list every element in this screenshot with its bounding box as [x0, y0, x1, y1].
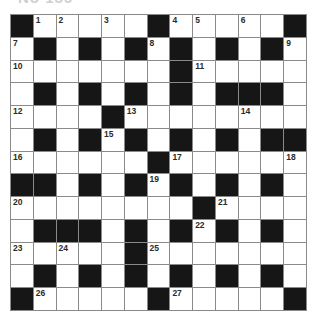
grid-cell[interactable] [102, 243, 124, 265]
grid-cell[interactable]: 9 [284, 38, 306, 60]
grid-cell[interactable] [284, 243, 306, 265]
grid-cell[interactable] [284, 220, 306, 242]
grid-cell[interactable]: 10 [11, 61, 33, 83]
grid-cell[interactable] [79, 15, 101, 37]
grid-cell[interactable] [79, 61, 101, 83]
grid-cell[interactable] [34, 243, 56, 265]
grid-cell[interactable] [239, 38, 261, 60]
grid-cell[interactable] [57, 265, 79, 287]
grid-cell[interactable]: 23 [11, 243, 33, 265]
grid-cell[interactable] [102, 152, 124, 174]
grid-cell[interactable] [102, 197, 124, 219]
grid-cell[interactable] [239, 288, 261, 310]
grid-cell[interactable]: 17 [170, 152, 192, 174]
grid-cell[interactable] [170, 197, 192, 219]
grid-cell[interactable] [148, 83, 170, 105]
grid-cell[interactable] [125, 288, 147, 310]
grid-cell[interactable] [57, 83, 79, 105]
grid-cell[interactable] [125, 197, 147, 219]
grid-cell[interactable] [284, 265, 306, 287]
grid-cell[interactable]: 27 [170, 288, 192, 310]
grid-cell[interactable] [239, 265, 261, 287]
grid-cell[interactable] [216, 288, 238, 310]
grid-cell[interactable]: 21 [216, 197, 238, 219]
grid-cell[interactable] [239, 197, 261, 219]
grid-cell[interactable]: 4 [170, 15, 192, 37]
grid-cell[interactable] [239, 220, 261, 242]
grid-cell[interactable] [34, 61, 56, 83]
grid-cell[interactable] [34, 152, 56, 174]
grid-cell[interactable] [193, 106, 215, 128]
grid-cell[interactable] [148, 61, 170, 83]
grid-cell[interactable] [170, 106, 192, 128]
grid-cell[interactable]: 5 [193, 15, 215, 37]
grid-cell[interactable] [193, 288, 215, 310]
grid-cell[interactable] [102, 38, 124, 60]
grid-cell[interactable] [102, 61, 124, 83]
grid-cell[interactable] [193, 152, 215, 174]
grid-cell[interactable] [193, 83, 215, 105]
grid-cell[interactable] [34, 106, 56, 128]
grid-cell[interactable] [216, 61, 238, 83]
grid-cell[interactable] [148, 265, 170, 287]
grid-cell[interactable] [79, 243, 101, 265]
grid-cell[interactable] [57, 288, 79, 310]
grid-cell[interactable] [11, 220, 33, 242]
grid-cell[interactable] [57, 129, 79, 151]
grid-cell[interactable]: 26 [34, 288, 56, 310]
grid-cell[interactable] [239, 152, 261, 174]
grid-cell[interactable]: 7 [11, 38, 33, 60]
grid-cell[interactable] [79, 288, 101, 310]
grid-cell[interactable]: 24 [57, 243, 79, 265]
grid-cell[interactable] [239, 174, 261, 196]
grid-cell[interactable] [11, 129, 33, 151]
grid-cell[interactable]: 11 [193, 61, 215, 83]
grid-cell[interactable] [261, 152, 283, 174]
grid-cell[interactable] [34, 197, 56, 219]
grid-cell[interactable]: 3 [102, 15, 124, 37]
grid-cell[interactable] [102, 220, 124, 242]
grid-cell[interactable] [57, 106, 79, 128]
grid-cell[interactable] [102, 174, 124, 196]
grid-cell[interactable] [79, 152, 101, 174]
grid-cell[interactable] [216, 243, 238, 265]
grid-cell[interactable] [57, 38, 79, 60]
grid-cell[interactable] [79, 197, 101, 219]
grid-cell[interactable] [57, 152, 79, 174]
grid-cell[interactable] [284, 61, 306, 83]
grid-cell[interactable] [148, 106, 170, 128]
grid-cell[interactable] [148, 220, 170, 242]
grid-cell[interactable] [261, 106, 283, 128]
grid-cell[interactable] [261, 61, 283, 83]
grid-cell[interactable] [193, 243, 215, 265]
grid-cell[interactable] [193, 38, 215, 60]
grid-cell[interactable] [148, 129, 170, 151]
grid-cell[interactable]: 16 [11, 152, 33, 174]
grid-cell[interactable] [125, 61, 147, 83]
grid-cell[interactable]: 18 [284, 152, 306, 174]
grid-cell[interactable]: 12 [11, 106, 33, 128]
grid-cell[interactable] [125, 15, 147, 37]
grid-cell[interactable] [102, 288, 124, 310]
grid-cell[interactable] [57, 61, 79, 83]
grid-cell[interactable] [125, 152, 147, 174]
grid-cell[interactable]: 22 [193, 220, 215, 242]
grid-cell[interactable] [284, 197, 306, 219]
grid-cell[interactable] [261, 197, 283, 219]
grid-cell[interactable] [193, 265, 215, 287]
grid-cell[interactable] [284, 83, 306, 105]
grid-cell[interactable] [284, 106, 306, 128]
grid-cell[interactable]: 15 [102, 129, 124, 151]
grid-cell[interactable]: 20 [11, 197, 33, 219]
grid-cell[interactable] [261, 243, 283, 265]
grid-cell[interactable] [57, 174, 79, 196]
grid-cell[interactable] [11, 265, 33, 287]
grid-cell[interactable] [239, 243, 261, 265]
grid-cell[interactable] [170, 243, 192, 265]
grid-cell[interactable] [102, 265, 124, 287]
grid-cell[interactable] [284, 174, 306, 196]
grid-cell[interactable] [11, 83, 33, 105]
grid-cell[interactable] [193, 174, 215, 196]
grid-cell[interactable]: 14 [239, 106, 261, 128]
grid-cell[interactable]: 6 [239, 15, 261, 37]
